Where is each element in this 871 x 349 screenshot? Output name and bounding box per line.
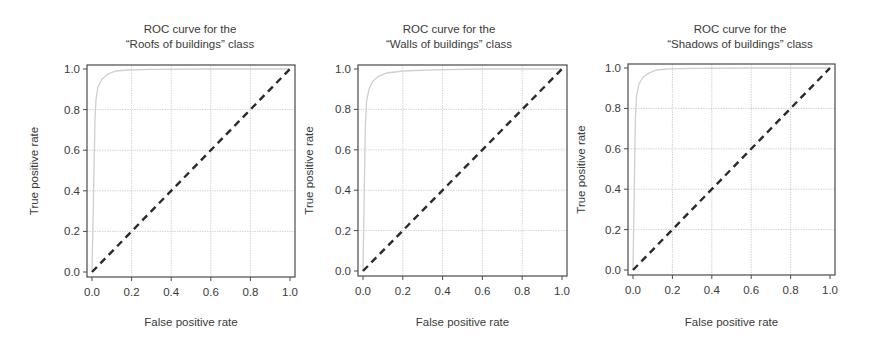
y-tick-label: 0.0: [335, 265, 351, 277]
x-tick-label: 0.6: [203, 286, 219, 298]
y-tick-label: 1.0: [605, 62, 621, 74]
y-tick-label: 1.0: [64, 63, 80, 75]
y-tick-label: 0.8: [335, 103, 351, 115]
y-tick-label: 0.0: [605, 264, 621, 276]
x-tick-label: 0.0: [84, 286, 100, 298]
x-tick-label: 0.6: [743, 284, 759, 296]
roc-chart-1: 0.00.20.40.60.81.00.00.20.40.60.81.0ROC …: [28, 23, 298, 328]
x-tick-label: 1.0: [282, 286, 298, 298]
y-tick-label: 0.2: [605, 224, 621, 236]
y-tick-label: 0.4: [64, 185, 81, 197]
x-axis-label: False positive rate: [416, 316, 509, 328]
random-classifier-diagonal: [633, 68, 830, 270]
x-tick-label: 0.2: [395, 285, 411, 297]
x-axis-ticks: 0.00.20.40.60.81.0: [355, 276, 570, 297]
y-axis-label: True positive rate: [575, 125, 587, 213]
y-axis-label: True positive rate: [303, 126, 315, 214]
y-tick-label: 0.8: [64, 104, 80, 116]
x-tick-label: 0.4: [704, 284, 721, 296]
x-tick-label: 1.0: [822, 284, 838, 296]
random-classifier-diagonal: [363, 69, 562, 271]
y-axis-ticks: 0.00.20.40.60.81.0: [335, 63, 358, 277]
chart-title: ROC curve for the“Roofs of buildings” cl…: [126, 23, 255, 50]
y-tick-label: 1.0: [335, 63, 351, 75]
x-axis-label: False positive rate: [685, 316, 778, 328]
y-tick-label: 0.4: [335, 184, 352, 196]
y-tick-label: 0.6: [605, 143, 621, 155]
x-tick-label: 0.8: [242, 286, 258, 298]
x-tick-label: 0.2: [124, 286, 140, 298]
y-tick-label: 0.6: [64, 144, 80, 156]
x-tick-label: 0.8: [514, 285, 530, 297]
x-tick-label: 0.0: [625, 284, 641, 296]
chart-title: ROC curve for the“Shadows of buildings” …: [667, 23, 813, 50]
y-tick-label: 0.8: [605, 102, 621, 114]
x-axis-ticks: 0.00.20.40.60.81.0: [625, 275, 838, 296]
x-tick-label: 1.0: [554, 285, 570, 297]
y-tick-label: 0.0: [64, 266, 80, 278]
x-axis-label: False positive rate: [144, 316, 237, 328]
y-axis-ticks: 0.00.20.40.60.81.0: [64, 63, 87, 278]
x-tick-label: 0.0: [355, 285, 371, 297]
random-classifier-diagonal: [92, 69, 290, 272]
y-tick-label: 0.6: [335, 144, 351, 156]
y-tick-label: 0.2: [64, 225, 80, 237]
y-axis-label: True positive rate: [28, 127, 40, 215]
y-axis-ticks: 0.00.20.40.60.81.0: [605, 62, 628, 276]
roc-chart-2: 0.00.20.40.60.81.00.00.20.40.60.81.0ROC …: [303, 23, 570, 328]
x-tick-label: 0.6: [474, 285, 490, 297]
chart-title: ROC curve for the“Walls of buildings” cl…: [386, 23, 512, 50]
x-tick-label: 0.4: [163, 286, 180, 298]
roc-figure: 0.00.20.40.60.81.00.00.20.40.60.81.0ROC …: [0, 0, 871, 349]
y-tick-label: 0.2: [335, 225, 351, 237]
y-tick-label: 0.4: [605, 183, 622, 195]
roc-chart-3: 0.00.20.40.60.81.00.00.20.40.60.81.0ROC …: [575, 23, 838, 328]
x-axis-ticks: 0.00.20.40.60.81.0: [84, 277, 298, 298]
x-tick-label: 0.2: [664, 284, 680, 296]
x-tick-label: 0.8: [783, 284, 799, 296]
x-tick-label: 0.4: [435, 285, 452, 297]
